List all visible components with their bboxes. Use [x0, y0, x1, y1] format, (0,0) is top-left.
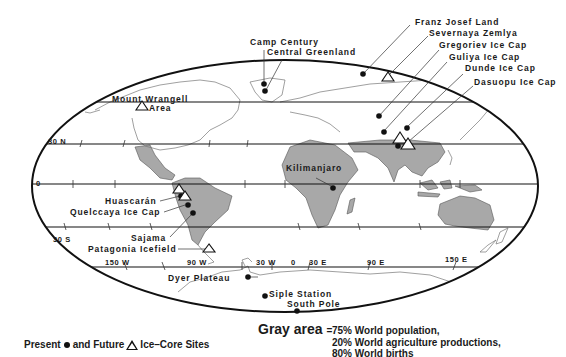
lon-label-90w: 90 W: [187, 259, 207, 267]
legend-and-future-text: and Future: [73, 339, 125, 350]
site-dot-siple: [262, 293, 268, 299]
label-siple-station: Siple Station: [269, 290, 332, 299]
gray-area-line-2: 20% World agriculture productions,: [332, 338, 501, 348]
legend-sites-text: Ice–Core Sites: [140, 339, 209, 350]
future-triangle-icon: [126, 340, 138, 350]
site-dot-gregoriev: [376, 113, 382, 119]
label-dyer-plateau: Dyer Plateau: [168, 274, 230, 283]
label-guliya-ice-cap: Guliya Ice Cap: [449, 53, 520, 62]
gray-area-legend: Gray area =: [258, 322, 332, 336]
site-dot-central-greenland: [262, 88, 268, 94]
site-dot-camp-century: [261, 81, 267, 87]
lon-label-30w: 30 W: [256, 259, 276, 267]
label-camp-century: Camp Century: [250, 38, 319, 47]
site-dot-dyer: [245, 274, 251, 280]
site-dot-sajama: [190, 210, 196, 216]
label-sajama: Sajama: [131, 234, 166, 243]
lat-label-30s: 30 S: [53, 236, 71, 244]
site-dot-south-pole: [294, 308, 300, 314]
lat-label-30n: 30 N: [48, 138, 66, 146]
site-dot-guliya: [381, 129, 387, 135]
site-dot-dunde: [404, 125, 410, 131]
site-dot-franz-josef: [360, 71, 366, 77]
label-dasuopu-ice-cap: Dasuopu Ice Cap: [474, 78, 556, 87]
lon-label-0: 0: [291, 259, 296, 267]
lon-label-90e: 90 E: [367, 259, 385, 267]
site-legend: Presentand FutureIce–Core Sites: [24, 340, 209, 350]
label-quelccaya-ice-cap: Quelccaya Ice Cap: [70, 208, 160, 217]
site-dot-kilimanjaro: [330, 185, 336, 191]
site-dot-quelccaya: [185, 202, 191, 208]
site-dot-dasuopu: [395, 143, 401, 149]
lat-label-0: 0: [36, 180, 41, 188]
label-dunde-ice-cap: Dunde Ice Cap: [465, 64, 536, 73]
site-triangle-tibet-1: [393, 132, 407, 143]
present-dot-icon: [64, 342, 70, 348]
site-triangle-severnaya: [382, 72, 394, 81]
gray-area-line-1: 75% World population,: [332, 326, 440, 336]
latitude-lines: [0, 102, 566, 267]
label-south-pole: South Pole: [287, 300, 340, 309]
gray-area-title: Gray area: [258, 321, 323, 337]
label-central-greenland: Central Greenland: [267, 48, 356, 57]
lon-label-150w: 150 W: [105, 259, 130, 267]
label-severnaya-zemlya: Severnaya Zemlya: [429, 29, 518, 38]
lon-label-30e: 30 E: [309, 259, 327, 267]
label-huascaran: Huascarán: [105, 197, 157, 206]
label-kilimanjaro: Kilimanjaro: [286, 164, 342, 173]
label-gregoriev-ice-cap: Gregoriev Ice Cap: [439, 41, 527, 50]
label-mount-wrangell-area: Area: [149, 104, 172, 113]
gray-land-areas: [135, 140, 494, 245]
label-patagonia-icefield: Patagonia Icefield: [88, 245, 176, 254]
site-triangle-patagonia: [203, 244, 215, 252]
gray-area-line-3: 80% World births: [332, 349, 414, 357]
legend-present-text: Present: [24, 339, 61, 350]
lon-label-150e: 150 E: [445, 256, 468, 264]
label-franz-josef-land: Franz Josef Land: [415, 18, 499, 27]
